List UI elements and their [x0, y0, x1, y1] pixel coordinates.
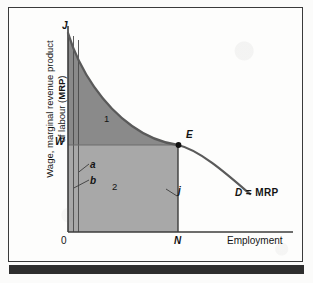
region-1-surplus-area — [68, 33, 178, 145]
region-2-wage-bill-rect — [68, 145, 178, 232]
label-N-employment: N — [174, 236, 181, 246]
page-bottom-bar — [9, 265, 304, 274]
label-W-wage: W — [55, 137, 64, 147]
y-axis-label-suffix: ) — [56, 75, 67, 78]
label-region-1: 1 — [104, 114, 109, 124]
label-demand-curve: D = MRP — [235, 188, 279, 198]
label-j-annotation: j — [178, 186, 181, 196]
label-b-annotation: b — [90, 176, 96, 186]
label-E-equilibrium: E — [186, 130, 193, 140]
y-axis-label-mrp: MRP — [56, 79, 67, 100]
demand-curve-d: D — [235, 187, 243, 198]
label-J-curve-intercept: J — [62, 21, 68, 31]
label-origin: 0 — [61, 236, 67, 246]
y-axis-label: Wage, marginal revenue product of labour… — [44, 19, 78, 199]
y-axis-label-line-1: Wage, marginal revenue product — [44, 19, 56, 199]
equilibrium-point-marker — [176, 142, 182, 148]
demand-curve-mrp: MRP — [255, 187, 278, 198]
x-axis-label: Employment — [227, 236, 283, 246]
label-a-annotation: a — [90, 160, 96, 170]
y-axis-label-line-2: of labour (MRP) — [56, 19, 68, 199]
label-region-2: 2 — [112, 182, 117, 192]
